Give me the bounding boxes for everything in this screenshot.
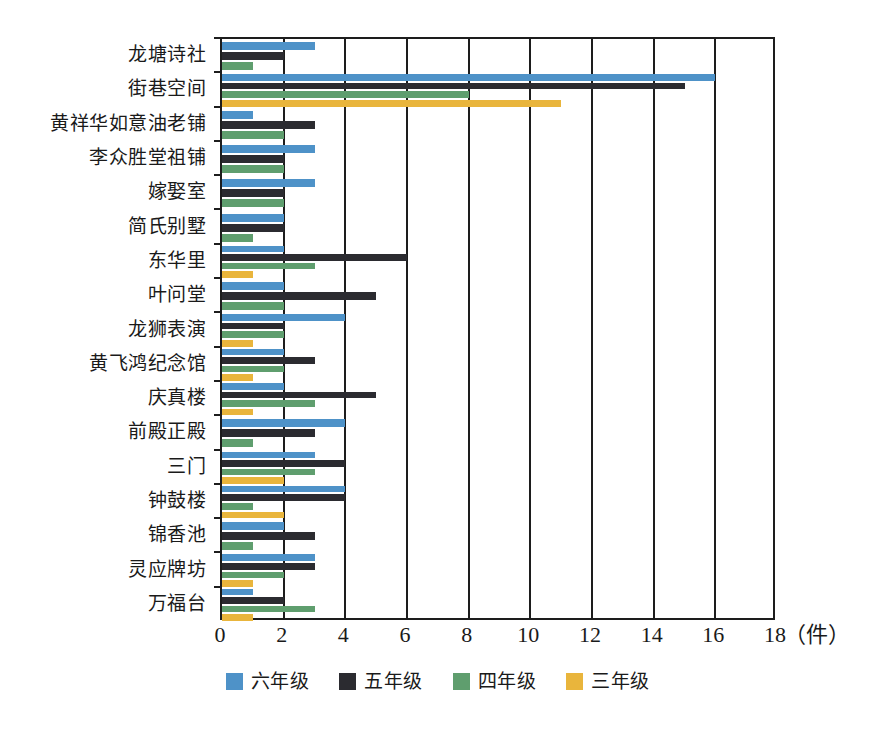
y-axis-category-label: 街巷空间 [128,79,206,98]
x-axis-tick-label: 4 [338,624,349,646]
bar-segment [222,494,345,501]
bar-row [222,348,773,382]
bar-segment [222,429,315,437]
bar-segment [222,439,253,447]
bar-row [222,39,773,73]
y-axis-category-label: 黄祥华如意油老铺 [50,113,206,132]
bar-row [222,142,773,176]
x-axis-tick-label: 16 [702,624,724,646]
bar-segment [222,383,284,390]
bar-segment [222,597,284,604]
legend-label: 五年级 [364,672,423,691]
bar-segment [222,614,253,621]
bar-segment [222,589,253,596]
bar-segment [222,357,315,364]
y-axis-category-label: 龙狮表演 [128,319,206,338]
y-axis-category-label: 锦香池 [148,525,207,544]
bar-segment [222,224,284,232]
bar-row [222,279,773,313]
bar-chart: 龙塘诗社街巷空间黄祥华如意油老铺李众胜堂祖铺嫁娶室简氏别墅东华里叶问堂龙狮表演黄… [0,0,875,753]
bar-row [222,451,773,485]
bar-segment [222,179,315,187]
bar-segment [222,392,376,399]
bar-segment [222,246,284,253]
bar-segment [222,606,315,613]
bar-segment [222,542,253,550]
bar-segment [222,282,284,290]
bar-segment [222,563,315,570]
bar-segment [222,165,284,173]
legend-swatch-icon [226,673,243,690]
bar-segment [222,366,284,373]
legend-swatch-icon [339,673,356,690]
y-axis-category-label: 东华里 [148,250,207,269]
y-axis-category-label: 灵应牌坊 [128,559,206,578]
legend-item[interactable]: 五年级 [339,672,423,691]
bar-segment [222,503,253,510]
bar-segment [222,477,284,484]
bar-segment [222,121,315,129]
bar-segment [222,62,253,70]
y-axis-category-label: 三门 [167,456,206,475]
x-axis-tick-label: 0 [215,624,226,646]
bar-segment [222,199,284,207]
bar-segment [222,512,284,519]
bar-segment [222,580,253,587]
bar-row [222,588,773,622]
bar-segment [222,419,345,427]
bar-segment [222,331,284,338]
y-axis-labels: 龙塘诗社街巷空间黄祥华如意油老铺李众胜堂祖铺嫁娶室简氏别墅东华里叶问堂龙狮表演黄… [0,37,214,620]
bar-segment [222,314,345,321]
y-axis-category-label: 黄飞鸿纪念馆 [89,353,206,372]
x-axis-tick-label: 14 [641,624,663,646]
legend-item[interactable]: 三年级 [566,672,650,691]
bar-segment [222,572,284,579]
legend: 六年级五年级四年级三年级 [0,672,875,691]
bar-segment [222,234,253,242]
bar-segment [222,145,315,153]
bar-segment [222,91,469,98]
y-axis-category-label: 李众胜堂祖铺 [89,148,206,167]
bar-segment [222,522,284,530]
x-axis-tick-label: 12 [579,624,601,646]
bar-segment [222,189,284,197]
legend-item[interactable]: 四年级 [453,672,537,691]
legend-label: 四年级 [478,672,537,691]
bar-row [222,176,773,210]
bar-row [222,313,773,347]
bar-segment [222,486,345,493]
plot-area [220,37,775,620]
x-axis-tick-label: 8 [461,624,472,646]
bar-segment [222,554,315,561]
bar-segment [222,349,284,356]
x-axis-tick-label: 18 [764,624,786,646]
bar-segment [222,409,253,416]
bar-row [222,485,773,519]
bar-segment [222,131,284,139]
bar-segment [222,42,315,50]
bar-segment [222,340,253,347]
bar-row [222,382,773,416]
bar-segment [222,460,345,467]
y-axis-category-label: 龙塘诗社 [128,45,206,64]
y-axis-category-label: 简氏别墅 [128,216,206,235]
x-axis-tick-label: 6 [400,624,411,646]
bar-segment [222,400,315,407]
bar-segment [222,254,407,261]
x-axis-tick-label: 2 [276,624,287,646]
bar-row [222,416,773,450]
y-axis-category-label: 万福台 [148,593,207,612]
bar-segment [222,214,284,222]
bar-row [222,553,773,587]
y-axis-category-label: 前殿正殿 [128,422,206,441]
x-axis-tick-label: 10 [517,624,539,646]
x-axis-labels: （件） 024681012141618 [0,624,875,658]
y-axis-category-label: 钟鼓楼 [148,490,207,509]
legend-label: 三年级 [591,672,650,691]
bar-segment [222,469,315,476]
bar-segment [222,100,561,107]
bar-segment [222,374,253,381]
legend-item[interactable]: 六年级 [226,672,310,691]
bar-segment [222,74,715,81]
bar-segment [222,532,315,540]
